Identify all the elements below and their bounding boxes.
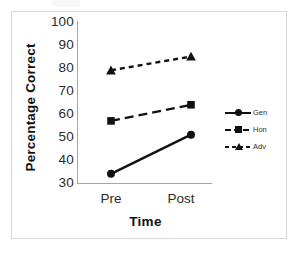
legend-label-hon: Hon: [253, 125, 267, 134]
legend-marker-circle-icon: [225, 107, 251, 119]
data-point-hon-post: [187, 101, 195, 109]
legend-marker-triangle-icon: [225, 141, 251, 153]
legend-label-gen: Gen: [253, 108, 267, 117]
data-point-hon-pre: [107, 117, 115, 125]
legend-item-gen[interactable]: Gen: [225, 104, 281, 121]
legend-item-adv[interactable]: Adv: [225, 138, 281, 155]
data-point-adv-post: [186, 52, 196, 61]
series-line-adv: [111, 57, 191, 71]
series-line-gen: [111, 135, 191, 174]
legend-label-adv: Adv: [253, 142, 266, 151]
chart-figure: 100 90 80 70 60 50 40 30 Pre Post Time P…: [0, 0, 299, 253]
chart-legend: Gen Hon Adv: [225, 104, 281, 155]
data-point-gen-pre: [107, 170, 115, 178]
series-line-hon: [111, 105, 191, 121]
series-gen: [107, 131, 195, 178]
series-hon: [107, 101, 195, 125]
legend-marker-square-icon: [225, 124, 251, 136]
data-point-gen-post: [187, 131, 195, 139]
legend-item-hon[interactable]: Hon: [225, 121, 281, 138]
series-adv: [106, 52, 196, 75]
